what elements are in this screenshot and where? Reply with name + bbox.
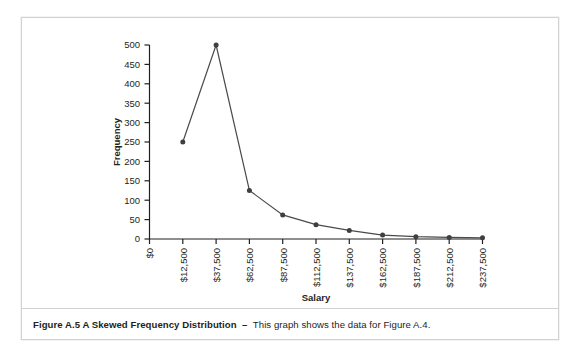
y-tick-label: 0 bbox=[135, 233, 140, 244]
y-tick-label: 400 bbox=[124, 78, 140, 89]
x-tick-label: $62,500 bbox=[244, 248, 255, 282]
data-point bbox=[247, 188, 252, 193]
caption-bold-part: Figure A.5 A Skewed Frequency Distributi… bbox=[33, 319, 237, 330]
data-series-markers bbox=[180, 43, 485, 241]
y-tick-label: 500 bbox=[124, 39, 140, 50]
x-tick-label: $137,500 bbox=[344, 248, 355, 288]
y-axis-title: Frequency bbox=[111, 117, 122, 166]
data-point bbox=[314, 222, 319, 227]
x-tick-label: $0 bbox=[144, 248, 155, 259]
data-series-line bbox=[183, 45, 483, 238]
x-tick-label: $37,500 bbox=[211, 248, 222, 282]
y-tick-label: 450 bbox=[124, 59, 140, 70]
x-tick-label: $212,500 bbox=[444, 248, 455, 288]
caption-rest: This graph shows the data for Figure A.4… bbox=[253, 319, 431, 330]
x-tick-label: $237,500 bbox=[477, 248, 488, 288]
x-tick-label: $112,500 bbox=[311, 248, 322, 287]
data-point bbox=[480, 235, 485, 240]
y-axis-ticks bbox=[145, 45, 150, 239]
caption-bar: Figure A.5 A Skewed Frequency Distributi… bbox=[22, 309, 558, 339]
y-tick-label: 250 bbox=[124, 136, 140, 147]
chart-plot-region: 0 50 100 150 200 250 300 350 400 450 500 bbox=[22, 18, 558, 308]
x-tick-label: $162,500 bbox=[377, 248, 388, 288]
data-point bbox=[380, 233, 385, 238]
y-tick-label: 200 bbox=[124, 156, 140, 167]
x-tick-label: $187,500 bbox=[411, 248, 422, 288]
data-point bbox=[180, 140, 185, 145]
x-tick-label: $87,500 bbox=[278, 248, 289, 282]
y-tick-label: 150 bbox=[124, 175, 140, 186]
y-tick-label: 300 bbox=[124, 117, 140, 128]
x-axis-ticks bbox=[150, 239, 483, 244]
data-point bbox=[280, 212, 285, 217]
figure-card: 0 50 100 150 200 250 300 350 400 450 500 bbox=[21, 17, 559, 340]
data-point bbox=[214, 43, 219, 48]
x-axis-title: Salary bbox=[302, 292, 331, 303]
x-tick-label: $12,500 bbox=[178, 248, 189, 282]
caption-dash: – bbox=[237, 319, 253, 330]
data-point bbox=[413, 234, 418, 239]
x-axis-tick-labels: $0 $12,500 $37,500 $62,500 $87,500 $112,… bbox=[144, 248, 488, 288]
data-point bbox=[347, 228, 352, 233]
data-point bbox=[447, 235, 452, 240]
frequency-distribution-line-chart: 0 50 100 150 200 250 300 350 400 450 500 bbox=[22, 18, 558, 308]
figure-caption: Figure A.5 A Skewed Frequency Distributi… bbox=[33, 319, 430, 330]
y-tick-label: 50 bbox=[129, 214, 140, 225]
y-tick-label: 100 bbox=[124, 195, 140, 206]
y-tick-label: 350 bbox=[124, 98, 140, 109]
y-axis-tick-labels: 0 50 100 150 200 250 300 350 400 450 500 bbox=[124, 39, 140, 244]
